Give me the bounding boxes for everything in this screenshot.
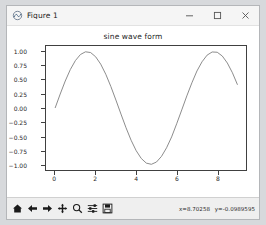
save-icon[interactable] bbox=[100, 201, 115, 216]
y-tick-label: −0.75 bbox=[7, 147, 27, 154]
x-tick-mark bbox=[136, 171, 137, 175]
chart-title: sine wave form bbox=[7, 32, 259, 41]
sine-wave-line bbox=[46, 46, 246, 170]
y-tick-label: −1.00 bbox=[7, 162, 27, 169]
configure-subplots-icon[interactable] bbox=[85, 201, 100, 216]
back-arrow-icon[interactable] bbox=[25, 201, 40, 216]
figure-window: Figure 1 sine wave form bbox=[6, 5, 260, 220]
y-tick-label: 0.75 bbox=[7, 62, 27, 69]
zoom-icon[interactable] bbox=[70, 201, 85, 216]
x-tick-mark bbox=[95, 171, 96, 175]
x-tick-mark bbox=[218, 171, 219, 175]
minimize-button[interactable] bbox=[175, 6, 203, 25]
x-tick-label: 4 bbox=[121, 175, 151, 182]
x-tick-label: 8 bbox=[203, 175, 233, 182]
x-tick-mark bbox=[54, 171, 55, 175]
screenshot-root: Figure 1 sine wave form bbox=[0, 0, 266, 225]
x-tick-label: 2 bbox=[80, 175, 110, 182]
forward-arrow-icon[interactable] bbox=[40, 201, 55, 216]
x-tick-mark bbox=[177, 171, 178, 175]
y-tick-label: −0.25 bbox=[7, 119, 27, 126]
y-tick-label: 0.50 bbox=[7, 76, 27, 83]
figure-canvas[interactable]: sine wave form −1.00−0.75−0.50−0.250.000… bbox=[7, 26, 259, 197]
plot-area[interactable] bbox=[45, 45, 247, 171]
x-tick-label: 0 bbox=[39, 175, 69, 182]
matplotlib-figure-icon bbox=[12, 10, 23, 21]
close-button[interactable] bbox=[231, 6, 259, 25]
home-icon[interactable] bbox=[10, 201, 25, 216]
cursor-coordinates: x=8.70258 y=-0.0989595 bbox=[176, 206, 259, 212]
x-tick-label: 6 bbox=[162, 175, 192, 182]
title-bar[interactable]: Figure 1 bbox=[7, 6, 259, 26]
maximize-button[interactable] bbox=[203, 6, 231, 25]
navigation-toolbar: x=8.70258 y=-0.0989595 bbox=[7, 197, 259, 219]
cursor-x-value: x=8.70258 bbox=[179, 206, 210, 212]
window-title: Figure 1 bbox=[27, 12, 58, 20]
y-tick-label: 1.00 bbox=[7, 47, 27, 54]
y-tick-label: 0.00 bbox=[7, 105, 27, 112]
y-tick-label: 0.25 bbox=[7, 90, 27, 97]
pan-icon[interactable] bbox=[55, 201, 70, 216]
y-tick-label: −0.50 bbox=[7, 133, 27, 140]
cursor-y-value: y=-0.0989595 bbox=[215, 206, 255, 212]
